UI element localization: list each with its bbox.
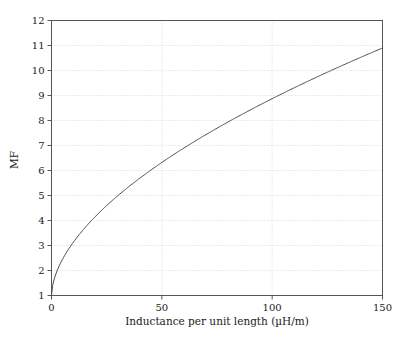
y-tick-label: 3	[38, 240, 44, 251]
y-tick-label: 10	[32, 65, 45, 76]
x-axis-title: Inductance per unit length (µH/m)	[125, 315, 309, 327]
y-tick-label: 8	[38, 115, 44, 126]
y-tick-label: 6	[38, 165, 44, 176]
x-tick-label: 0	[48, 302, 54, 313]
y-tick-label: 5	[38, 190, 44, 201]
y-tick-label: 1	[38, 290, 44, 301]
y-tick-label: 9	[38, 90, 44, 101]
x-tick-label: 50	[155, 302, 168, 313]
y-tick-label: 12	[32, 15, 45, 26]
y-tick-label: 7	[38, 140, 44, 151]
y-axis-title: MF	[8, 151, 20, 169]
y-tick-label: 4	[38, 215, 44, 226]
figure-background	[0, 0, 408, 340]
x-tick-label: 150	[373, 302, 392, 313]
chart-figure: 123456789101112 050100150 Inductance per…	[0, 0, 408, 340]
plot-canvas: 123456789101112 050100150 Inductance per…	[0, 0, 408, 340]
y-tick-label: 2	[38, 265, 44, 276]
x-tick-label: 100	[263, 302, 282, 313]
y-tick-label: 11	[32, 40, 45, 51]
